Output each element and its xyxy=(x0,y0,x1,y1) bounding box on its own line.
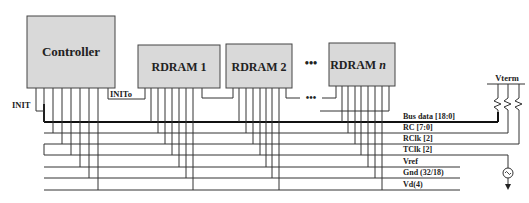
controller-pins xyxy=(44,88,98,190)
resistor-icon xyxy=(515,84,522,112)
controller-label: Controller xyxy=(42,44,100,59)
rdramn-label: RDRAM n xyxy=(330,58,386,72)
bus-label-rclk: RClk [2] xyxy=(403,134,433,143)
bus-label-data: Bus data [18:0] xyxy=(403,112,455,121)
init-label: INIT xyxy=(12,100,31,110)
bus-label-rc: RC [7:0] xyxy=(403,123,433,132)
clock-source-icon xyxy=(503,168,513,190)
termination-resistors xyxy=(494,84,522,112)
bus-label-vd: Vd(4) xyxy=(403,180,423,189)
rdram2-pins xyxy=(239,88,279,190)
bus-label-gnd: Gnd (32/18) xyxy=(403,168,444,177)
resistor-icon xyxy=(494,84,501,112)
bus-label-vref: Vref xyxy=(403,157,418,166)
rdramn-chain-in xyxy=(322,86,336,98)
rdramn-pins xyxy=(342,86,382,190)
rdram-bus-diagram: Controller RDRAM 1 RDRAM 2 RDRAM n ••• •… xyxy=(0,0,529,203)
rdram1-to-rdram2-wire xyxy=(202,88,233,98)
inito-label: INITo xyxy=(110,89,132,99)
ellipsis-top: ••• xyxy=(305,56,318,70)
rdram1-label: RDRAM 1 xyxy=(152,60,207,74)
rdram1-pins xyxy=(151,88,193,190)
rdram2-label: RDRAM 2 xyxy=(232,60,287,74)
bus-label-tclk: TClk [2] xyxy=(403,145,432,154)
rdram2-chain-out xyxy=(286,88,300,98)
ellipsis-chain: ••• xyxy=(306,92,317,103)
resistor-icon xyxy=(504,84,511,112)
vterm-label: Vterm xyxy=(495,73,519,83)
